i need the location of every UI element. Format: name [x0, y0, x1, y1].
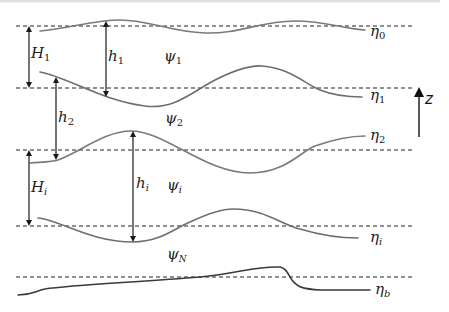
label-Hi: Hi — [30, 178, 47, 197]
z-axis-label: z — [424, 90, 434, 108]
label-etai: ηi — [370, 228, 382, 247]
label-h2-symbol: h — [58, 108, 68, 126]
label-eta2-sub: 2 — [379, 134, 385, 145]
label-h2-sub: 2 — [68, 116, 74, 127]
label-psiN: ψN — [167, 245, 188, 264]
label-psi2: ψ2 — [165, 109, 183, 128]
label-eta1-sub: 1 — [379, 94, 385, 105]
label-H1-sub: 1 — [44, 52, 50, 63]
label-psi1-sub: 1 — [176, 55, 182, 66]
label-eta1-symbol: η — [370, 86, 379, 104]
label-psiN-sub: N — [178, 254, 188, 264]
interface-eta1-curve — [40, 66, 362, 107]
label-eta0-symbol: η — [370, 22, 379, 40]
bottom-topography-etab-curve — [18, 267, 370, 295]
label-h1: h1 — [108, 47, 124, 66]
label-psi1-symbol: ψ — [164, 47, 176, 65]
label-eta0: η0 — [370, 22, 385, 41]
label-etai-sub: i — [379, 236, 382, 247]
label-h1-symbol: h — [108, 47, 118, 65]
label-etab: ηb — [375, 280, 390, 299]
interface-eta2-curve — [30, 131, 365, 173]
label-etai-symbol: η — [370, 228, 379, 246]
label-psi2-symbol: ψ — [165, 109, 177, 127]
label-psi2-sub: 2 — [177, 117, 183, 128]
label-psii-sub: i — [179, 184, 182, 195]
label-Hi-sub: i — [44, 186, 47, 197]
label-psii: ψi — [167, 176, 182, 195]
label-h1-sub: 1 — [118, 55, 124, 66]
label-psii-symbol: ψ — [167, 176, 179, 194]
label-psi1: ψ1 — [164, 47, 182, 66]
label-etab-symbol: η — [375, 280, 384, 298]
label-hi-sub: i — [146, 182, 149, 193]
label-hi-symbol: h — [136, 174, 146, 192]
label-Hi-symbol: H — [30, 178, 45, 196]
label-h2: h2 — [58, 108, 74, 127]
label-eta2-symbol: η — [370, 126, 379, 144]
label-eta2: η2 — [370, 126, 385, 145]
label-etab-sub: b — [384, 288, 390, 299]
label-psiN-symbol: ψ — [167, 245, 179, 263]
label-H1: H1 — [30, 44, 50, 63]
label-hi: hi — [136, 174, 149, 193]
layer-schematic: z H1 Hi h1 h2 hi ψ1 ψ2 ψi ψN η0 η1 η2 ηi… — [0, 0, 449, 312]
label-eta0-sub: 0 — [379, 30, 385, 41]
label-H1-symbol: H — [30, 44, 45, 62]
label-eta1: η1 — [370, 86, 385, 105]
